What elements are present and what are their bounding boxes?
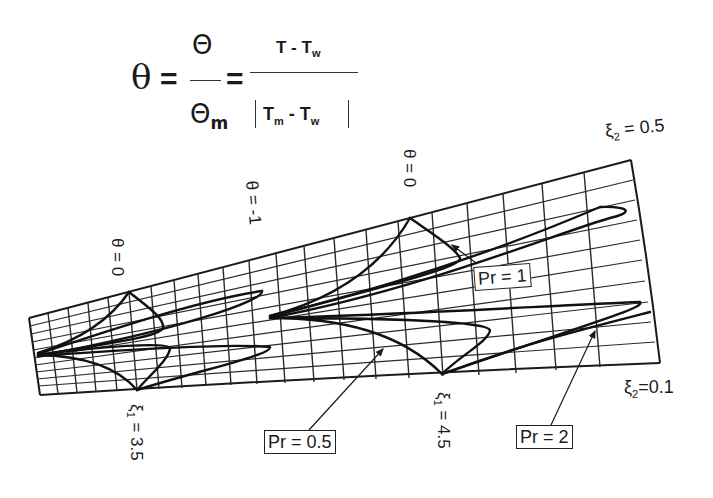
formula-frac2-bar bbox=[250, 72, 358, 73]
formula-frac2-den-sub-m: m bbox=[274, 115, 284, 127]
xi1-value: = 4.5 bbox=[434, 406, 453, 449]
formula-abs-bar-right bbox=[348, 100, 349, 128]
label-xi2-0-1: ξ2=0.1 bbox=[624, 377, 674, 400]
formula-frac2-den-sub-w: w bbox=[311, 115, 320, 127]
xi1-symbol: ξ bbox=[127, 404, 146, 412]
label-theta-minus-one: θ = -1 bbox=[241, 180, 265, 226]
callout-pr-0-5: Pr = 0.5 bbox=[264, 430, 336, 454]
formula-frac2-num-text: T - T bbox=[276, 38, 312, 57]
formula-frac1-bar bbox=[190, 80, 221, 81]
label-xi1-3-5: ξ1 = 3.5 bbox=[125, 404, 146, 461]
formula-equals-1: = bbox=[160, 62, 178, 96]
formula-theta-lhs: θ bbox=[131, 57, 151, 97]
label-theta-zero-right: θ = 0 bbox=[399, 149, 419, 187]
formula-frac1-den-symbol: Θ bbox=[190, 99, 210, 129]
formula-frac1-den-sub: m bbox=[210, 113, 228, 133]
formula-frac2-numerator: T - Tw bbox=[276, 38, 320, 59]
xi2-value: =0.1 bbox=[638, 377, 674, 397]
grid-boundary bbox=[29, 160, 660, 395]
label-theta-zero-left: θ = 0 bbox=[107, 238, 127, 276]
formula-frac2-denominator: Tm - Tw bbox=[263, 104, 319, 127]
formula-frac2-den-minus-t: - T bbox=[284, 104, 311, 124]
formula-frac2-num-sub: w bbox=[312, 47, 321, 59]
xi1-value: = 3.5 bbox=[127, 418, 146, 461]
pr2-arrow bbox=[551, 331, 595, 425]
xi2-symbol: ξ bbox=[624, 377, 632, 397]
callout-pr-2: Pr = 2 bbox=[516, 425, 573, 449]
callout-pr-1: Pr = 1 bbox=[473, 263, 531, 291]
formula-frac2-den-t: T bbox=[263, 104, 274, 124]
xi1-symbol: ξ bbox=[434, 392, 453, 400]
label-xi1-4-5: ξ1 = 4.5 bbox=[432, 392, 453, 449]
formula-frac1-numerator: Θ bbox=[192, 30, 212, 60]
formula-abs-bar-left bbox=[255, 100, 256, 128]
formula-equals-2: = bbox=[226, 62, 244, 96]
formula-frac1-denominator: Θm bbox=[190, 99, 228, 133]
xi2-value: = 0.5 bbox=[618, 115, 665, 140]
pr05-arrow bbox=[309, 349, 383, 430]
